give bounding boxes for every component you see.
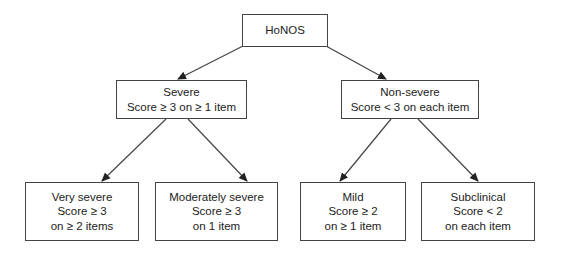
node-mild: Mild Score ≥ 2 on ≥ 1 item bbox=[300, 182, 406, 241]
node-subclinical-title: Subclinical bbox=[451, 190, 506, 205]
node-mild-title: Mild bbox=[342, 190, 363, 205]
node-severe-title: Severe bbox=[163, 85, 199, 100]
node-very-severe: Very severe Score ≥ 3 on ≥ 2 items bbox=[25, 182, 139, 241]
node-honos: HoNOS bbox=[242, 14, 328, 47]
node-very-severe-title: Very severe bbox=[52, 190, 113, 205]
node-non-severe: Non-severe Score < 3 on each item bbox=[341, 80, 479, 119]
arrow-honos-to-severe bbox=[178, 46, 243, 79]
arrow-severe-to-very-severe bbox=[102, 119, 166, 181]
arrow-severe-to-moderately-severe bbox=[188, 119, 247, 181]
node-very-severe-scope: on ≥ 2 items bbox=[51, 219, 114, 234]
node-moderately-severe-criterion: Score ≥ 3 bbox=[192, 204, 241, 219]
node-subclinical-criterion: Score < 2 bbox=[453, 204, 503, 219]
node-mild-scope: on ≥ 1 item bbox=[325, 219, 382, 234]
node-non-severe-title: Non-severe bbox=[380, 85, 439, 100]
node-mild-criterion: Score ≥ 2 bbox=[328, 204, 377, 219]
node-non-severe-criterion: Score < 3 on each item bbox=[351, 100, 470, 115]
node-moderately-severe-scope: on 1 item bbox=[193, 219, 240, 234]
node-very-severe-criterion: Score ≥ 3 bbox=[57, 204, 106, 219]
node-subclinical-scope: on each item bbox=[445, 219, 511, 234]
arrow-non-severe-to-subclinical bbox=[418, 119, 478, 181]
node-moderately-severe-title: Moderately severe bbox=[169, 190, 264, 205]
node-honos-label: HoNOS bbox=[265, 23, 305, 38]
node-severe-criterion: Score ≥ 3 on ≥ 1 item bbox=[127, 100, 236, 115]
arrow-non-severe-to-mild bbox=[340, 119, 391, 181]
arrow-honos-to-non-severe bbox=[326, 46, 386, 79]
node-moderately-severe: Moderately severe Score ≥ 3 on 1 item bbox=[155, 182, 278, 241]
node-subclinical: Subclinical Score < 2 on each item bbox=[421, 182, 535, 241]
node-severe: Severe Score ≥ 3 on ≥ 1 item bbox=[116, 80, 247, 119]
